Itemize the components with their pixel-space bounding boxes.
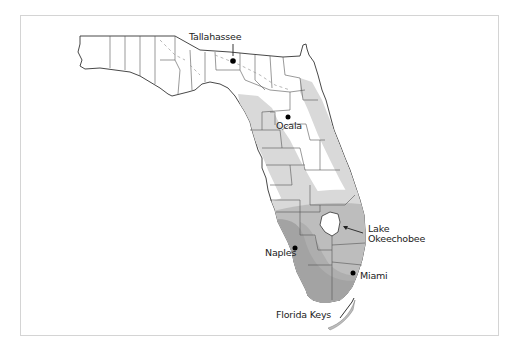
- label-naples: Naples: [265, 247, 296, 258]
- florida-keys: [328, 300, 355, 330]
- miami-marker: [351, 271, 356, 276]
- ocala-marker: [286, 115, 291, 120]
- label-tallahassee: Tallahassee: [189, 31, 241, 42]
- florida-map: [0, 0, 516, 352]
- tallahassee-marker: [230, 58, 236, 64]
- label-ocala: Ocala: [276, 120, 302, 131]
- label-miami: Miami: [360, 270, 388, 281]
- label-florida-keys: Florida Keys: [276, 309, 331, 320]
- label-lake-line2: Okeechobee: [368, 233, 425, 244]
